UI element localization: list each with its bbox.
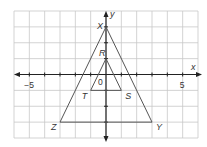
tick-label: −5 — [24, 80, 34, 90]
vertex-label-t: T — [82, 91, 89, 101]
y-axis-label: y — [109, 9, 115, 19]
y-axis-arrow-up — [104, 11, 109, 17]
vertex-label-z: Z — [50, 122, 57, 132]
vertex-label-x: X — [96, 21, 104, 31]
x-axis-arrow-right — [196, 72, 202, 77]
coordinate-plane: xy−550XYZRST — [0, 0, 207, 147]
vertex-label-s: S — [125, 91, 131, 101]
tick-label: 0 — [98, 77, 103, 87]
vertex-label-y: Y — [156, 122, 163, 132]
x-axis-label: x — [190, 62, 196, 72]
tick-label: 5 — [180, 80, 185, 90]
x-axis-arrow-left — [14, 72, 20, 77]
labels: xy−550XYZRST — [24, 9, 196, 132]
vertex-label-r: R — [99, 48, 106, 58]
y-axis-arrow-down — [104, 136, 109, 142]
